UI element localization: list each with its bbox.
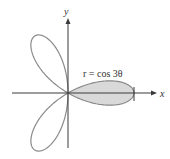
equation-label: r = cos 3θ (83, 68, 123, 79)
x-axis-label: x (159, 88, 165, 99)
x-axis-arrow-icon (151, 91, 157, 96)
y-axis-label: y (63, 6, 69, 17)
y-axis-arrow-icon (66, 18, 71, 24)
polar-rose-figure: x y r = cos 3θ (0, 0, 170, 159)
